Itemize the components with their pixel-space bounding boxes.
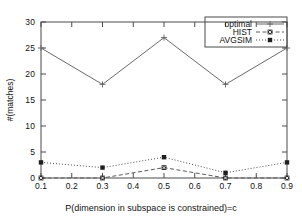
series-markers-avgsim [39, 155, 289, 175]
x-tick-label: 0.5 [151, 181, 177, 191]
series-line-avgsim [41, 157, 287, 173]
legend-sample-avgsim [256, 38, 284, 42]
legend-sample-hist [256, 30, 284, 35]
x-tick-label: 0.4 [120, 181, 146, 191]
y-tick-label: 5 [9, 147, 35, 157]
y-axis-label: #(matches) [5, 68, 15, 132]
y-tick-label: 25 [9, 43, 35, 53]
y-axis-ticks [41, 22, 287, 178]
x-tick-label: 0.9 [274, 181, 300, 191]
x-tick-label: 0.1 [28, 181, 54, 191]
x-tick-label: 0.3 [90, 181, 116, 191]
x-tick-label: 0.6 [182, 181, 208, 191]
legend-label-avgsim: AVGSIM [192, 35, 252, 45]
plot-frame [41, 22, 287, 178]
chart-container: 30 25 20 15 10 5 0 0.1 0.2 0.3 0.4 0.5 0… [0, 0, 302, 224]
x-tick-label: 0.7 [213, 181, 239, 191]
x-tick-label: 0.8 [243, 181, 269, 191]
y-tick-label: 30 [9, 17, 35, 27]
x-axis-label: P(dimension in subspace is constrained)=… [0, 203, 302, 213]
x-axis-ticks [41, 22, 287, 178]
series-markers-optimal [38, 35, 290, 88]
x-tick-label: 0.2 [59, 181, 85, 191]
